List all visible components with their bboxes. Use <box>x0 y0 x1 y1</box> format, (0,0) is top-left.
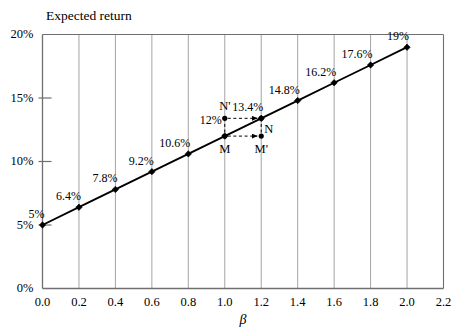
data-label-16.2%: 16.2% <box>305 66 336 78</box>
x-tick-label-2.2: 2.2 <box>436 296 452 309</box>
y-tick-label-0%: 0% <box>17 282 34 295</box>
x-tick-label-0.2: 0.2 <box>71 296 87 309</box>
x-tick-label-1.8: 1.8 <box>363 296 379 309</box>
data-label-13.4%: 13.4% <box>232 101 263 113</box>
data-label-12%: 12% <box>200 114 222 126</box>
annotation-label-N-prime: N' <box>219 100 230 113</box>
x-tick-label-0.4: 0.4 <box>108 296 124 309</box>
annotation-label-M: M <box>219 143 230 156</box>
annotation-point-M <box>222 134 227 139</box>
annotation-point-N <box>259 116 264 121</box>
chart-background <box>0 0 466 332</box>
x-tick-label-0.6: 0.6 <box>144 296 160 309</box>
x-axis-title: β <box>240 313 247 327</box>
annotation-label-N: N <box>264 123 273 136</box>
annotation-point-N-prime <box>222 116 227 121</box>
security-market-line-chart: 0%5%10%15%20%0.00.20.40.60.81.01.21.41.6… <box>0 0 466 332</box>
data-label-17.6%: 17.6% <box>342 48 373 60</box>
y-axis-title: Expected return <box>46 9 132 23</box>
data-label-7.8%: 7.8% <box>92 172 117 184</box>
x-tick-label-1.0: 1.0 <box>217 296 233 309</box>
y-tick-label-10%: 10% <box>11 155 34 168</box>
y-tick-label-20%: 20% <box>11 28 34 41</box>
chart-canvas <box>0 0 466 332</box>
data-label-9.2%: 9.2% <box>129 155 154 167</box>
y-tick-label-15%: 15% <box>11 92 34 105</box>
data-label-6.4%: 6.4% <box>56 190 81 202</box>
annotation-point-M-prime <box>259 134 264 139</box>
x-tick-label-0.0: 0.0 <box>35 296 51 309</box>
x-tick-label-0.8: 0.8 <box>181 296 197 309</box>
x-tick-label-2.0: 2.0 <box>399 296 415 309</box>
x-tick-label-1.6: 1.6 <box>326 296 342 309</box>
data-label-19%: 19% <box>387 30 409 42</box>
data-label-14.8%: 14.8% <box>269 84 300 96</box>
x-tick-label-1.4: 1.4 <box>290 296 306 309</box>
x-tick-label-1.2: 1.2 <box>253 296 269 309</box>
annotation-label-M-prime: M' <box>255 143 268 156</box>
data-label-10.6%: 10.6% <box>159 137 190 149</box>
data-label-5%: 5% <box>29 208 45 220</box>
